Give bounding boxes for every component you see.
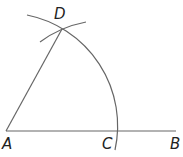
label-D: D (54, 7, 66, 22)
arc-centered-A (27, 15, 118, 150)
arc-centered-C (40, 22, 86, 42)
label-B: B (170, 137, 180, 152)
label-A: A (2, 137, 12, 152)
label-C: C (102, 137, 112, 152)
construction-canvas (0, 0, 183, 157)
segment-AD (6, 29, 62, 131)
